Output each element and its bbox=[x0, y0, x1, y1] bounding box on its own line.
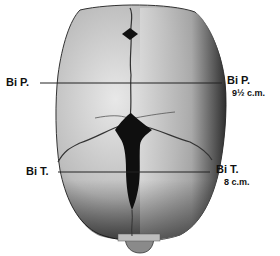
bitemporal-right-label: Bi T. bbox=[216, 163, 239, 175]
bitemporal-value: 8 c.m. bbox=[224, 177, 250, 187]
biparietal-value: 9½ c.m. bbox=[232, 88, 265, 98]
biparietal-right-label: Bi P. bbox=[227, 74, 250, 86]
biparietal-left-label: Bi P. bbox=[6, 76, 29, 88]
skull-diagram bbox=[0, 0, 280, 256]
bitemporal-left-label: Bi T. bbox=[26, 165, 49, 177]
frontal-suture bbox=[132, 210, 133, 236]
